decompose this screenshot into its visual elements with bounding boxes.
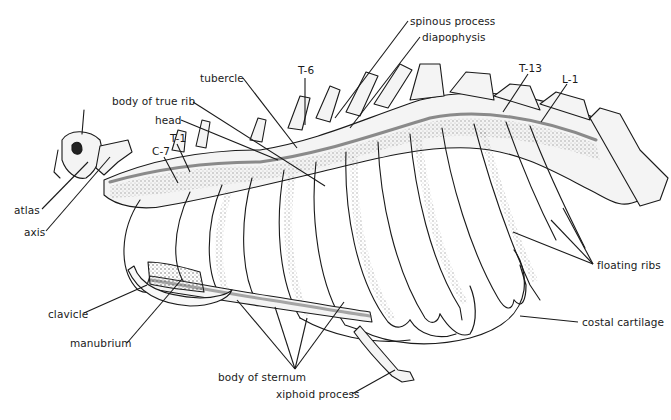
label-tubercle: tubercle	[200, 72, 244, 84]
leader-body-of-sternum-2	[275, 307, 295, 369]
leader-floating-ribs-2	[551, 220, 593, 264]
label-floating-ribs: floating ribs	[597, 259, 661, 271]
label-body-of-true-rib: body of true rib	[112, 95, 195, 107]
label-manubrium: manubrium	[70, 337, 132, 349]
label-diapophysis: diapophysis	[422, 31, 486, 43]
label-atlas: atlas	[14, 204, 40, 216]
label-t1: T-1	[170, 132, 186, 144]
leader-costal-cartilage	[520, 316, 578, 322]
label-body-of-sternum: body of sternum	[218, 371, 306, 383]
label-t6: T-6	[298, 64, 314, 76]
label-spinous-process: spinous process	[410, 15, 495, 27]
label-c7: C-7	[152, 145, 170, 157]
skeleton-illustration	[0, 0, 671, 420]
leader-atlas	[42, 162, 88, 209]
axis-bone	[96, 140, 132, 175]
label-head: head	[155, 114, 182, 126]
atlas-bone	[62, 132, 101, 179]
label-t13: T-13	[519, 62, 542, 74]
label-costal-cartilage: costal cartilage	[582, 316, 664, 328]
rib-cage-skeleton-diagram: spinous process diapophysis tubercle T-6…	[0, 0, 671, 420]
leader-floating-ribs-3	[563, 208, 593, 264]
label-clavicle: clavicle	[48, 308, 88, 320]
leader-clavicle	[84, 285, 147, 313]
label-xiphoid-process: xiphoid process	[276, 388, 360, 400]
label-l1: L-1	[562, 73, 578, 85]
label-axis: axis	[24, 226, 45, 238]
xiphoid-bone	[354, 326, 414, 382]
